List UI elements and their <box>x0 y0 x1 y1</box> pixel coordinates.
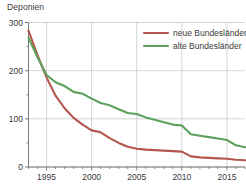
chart-container: Deponien 010020030019952000200520102015n… <box>0 0 246 192</box>
x-axis-tick-label: 2015 <box>217 172 236 182</box>
legend-label-1: alte Bundesländer <box>173 41 242 51</box>
line-chart: 010020030019952000200520102015neue Bunde… <box>0 0 246 192</box>
x-axis-tick-label: 2010 <box>172 172 191 182</box>
x-axis-tick-label: 1995 <box>37 172 56 182</box>
y-axis-tick-label: 0 <box>18 162 23 172</box>
y-axis-tick-label: 100 <box>9 114 23 124</box>
x-axis-tick-label: 2000 <box>82 172 101 182</box>
y-axis-tick-label: 200 <box>9 66 23 76</box>
x-axis-tick-label: 2005 <box>127 172 146 182</box>
y-axis-tick-label: 300 <box>9 18 23 28</box>
legend-label-0: neue Bundesländer <box>173 28 246 38</box>
